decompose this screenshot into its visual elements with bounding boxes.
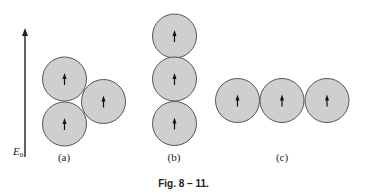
dipole-arrangement-figure: E0 (a) (b) (c) Fig. 8 – 11.	[0, 0, 367, 195]
field-arrowhead-icon	[22, 28, 28, 36]
dipole-sphere	[82, 80, 126, 124]
panel-label: (a)	[58, 151, 71, 164]
dipole-sphere	[153, 14, 197, 58]
panel-a-triangle: (a)	[43, 57, 126, 164]
dipole-sphere	[260, 79, 304, 123]
dipole-sphere	[153, 102, 197, 146]
dipole-sphere	[43, 57, 87, 101]
dipole-sphere	[43, 102, 87, 146]
dipole-sphere	[153, 57, 197, 101]
figure-caption: Fig. 8 – 11.	[158, 178, 209, 189]
panel-b-vertical: (b)	[153, 14, 197, 164]
electric-field-arrow: E0	[12, 28, 28, 159]
dipole-sphere	[216, 79, 260, 123]
panel-c-horizontal: (c)	[216, 79, 350, 165]
dipole-sphere	[305, 79, 349, 123]
field-label: E0	[12, 145, 24, 159]
panel-label: (c)	[276, 151, 289, 164]
panel-label: (b)	[168, 151, 181, 164]
